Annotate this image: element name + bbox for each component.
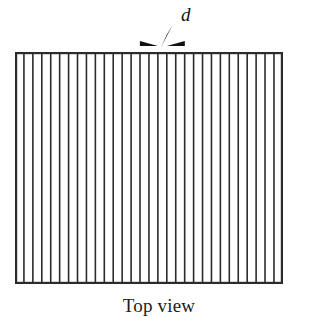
figure-caption: Top view	[0, 294, 318, 318]
top-view-figure: d Top view	[0, 0, 318, 326]
diffraction-grating-diagram	[0, 0, 318, 326]
dimension-label-d: d	[181, 5, 191, 25]
figure-background	[0, 0, 318, 326]
